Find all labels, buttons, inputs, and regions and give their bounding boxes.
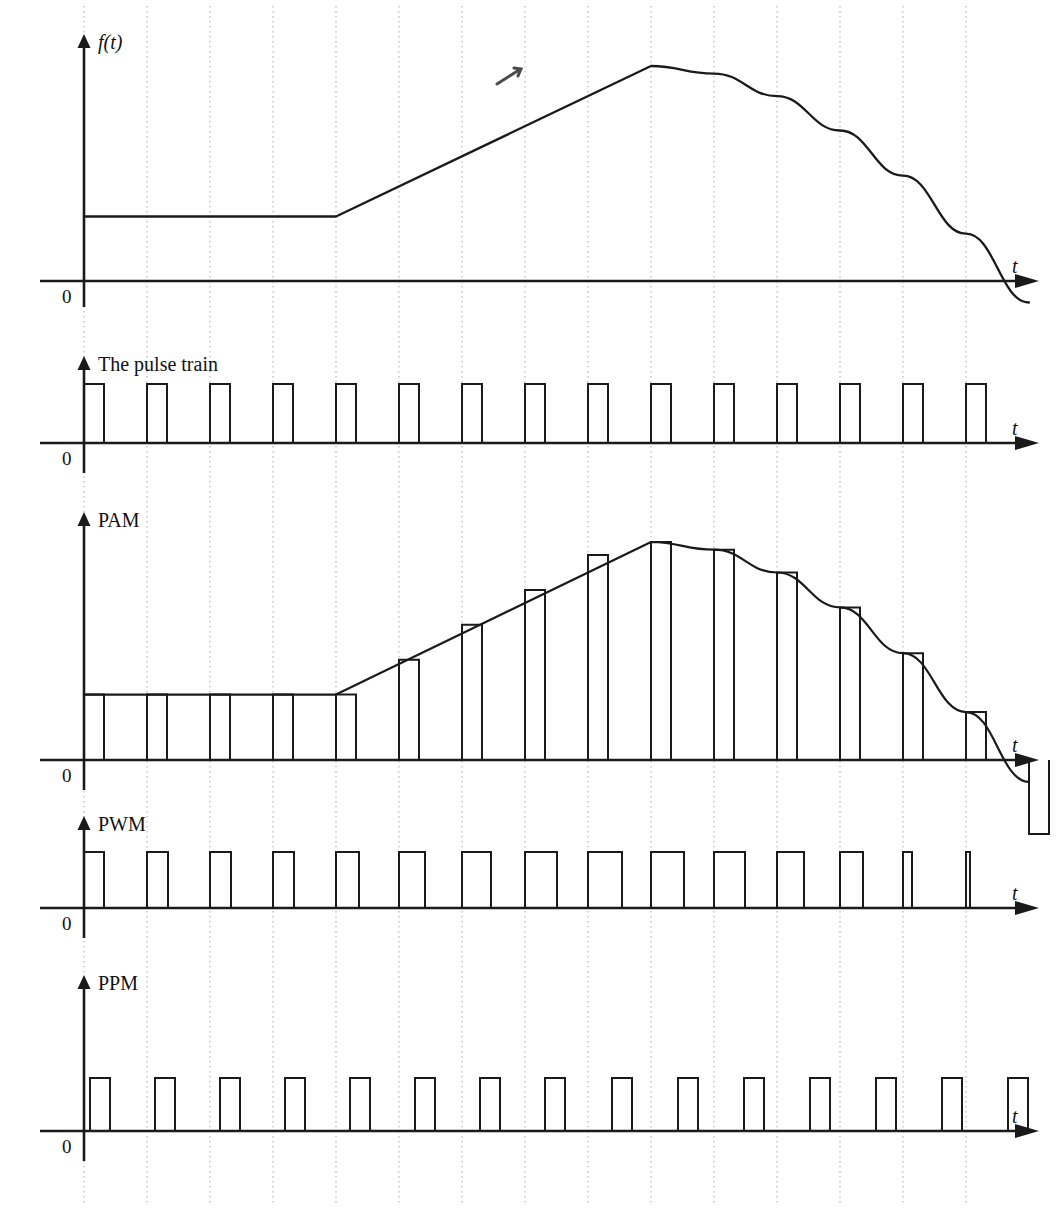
axes-pwm [40,816,1039,938]
pam-pulse [462,625,482,760]
pam-pulse [84,695,104,760]
signal-curve [84,66,1029,303]
pulse-train-pulse [273,384,293,443]
origin-label-pwm: 0 [62,914,72,933]
ppm-pulse [90,1078,110,1131]
pam-pulse [588,555,608,760]
pam-pulse [273,695,293,760]
pam-pulse [714,550,734,760]
pwm-pulse [651,852,684,908]
pam-envelope [84,542,1029,782]
pulse-train-pulse [84,384,104,443]
t-axis-arrow-pulse-train [1015,436,1039,450]
pam-pulse [1029,760,1049,834]
ramp-marker-icon [497,68,521,84]
pwm-pulse [336,852,359,908]
pwm-pulse [84,852,104,908]
pulse-modulation-figure: f(t)t0The pulse traint0PAMt0PWMt0PPMt0 [0,0,1056,1210]
origin-label-ppm: 0 [62,1137,72,1156]
ppm-pulse [942,1078,962,1131]
t-axis-arrow-signal [1015,274,1039,288]
pulse-train-pulse [399,384,419,443]
panel-label-signal: f(t) [98,32,122,52]
pam-pulse [147,695,167,760]
value-axis-arrow-ppm [78,975,91,989]
pam-pulse [777,573,797,760]
origin-label-pulse-train: 0 [62,449,72,468]
pwm-group [84,852,970,908]
pulse-train-pulse [147,384,167,443]
t-axis-label-pwm: t [1012,883,1018,903]
pulse-train-pulse [462,384,482,443]
t-axis-label-ppm: t [1012,1106,1018,1126]
pwm-pulse [903,852,912,908]
ppm-pulse [480,1078,500,1131]
ppm-group [90,1078,1028,1131]
t-axis-arrow-pam [1015,753,1039,767]
pwm-pulse [714,852,745,908]
panel-label-pam: PAM [98,510,140,530]
pulse-train-pulse [714,384,734,443]
pam-pulse [399,660,419,760]
pam-pulse [651,542,671,760]
pulse-train-pulse [651,384,671,443]
t-axis-label-pam: t [1012,735,1018,755]
ppm-pulse [744,1078,764,1131]
value-axis-arrow-pulse-train [78,356,91,370]
axes-ppm [40,975,1039,1161]
pwm-pulse [462,852,491,908]
axes-pam [40,512,1039,790]
panel-label-pulse-train: The pulse train [98,354,218,374]
ppm-pulse [220,1078,240,1131]
ppm-pulse [285,1078,305,1131]
t-axis-arrow-pwm [1015,901,1039,915]
pulse-train-pulse [777,384,797,443]
pwm-pulse [273,852,294,908]
ppm-pulse [678,1078,698,1131]
pwm-pulse [777,852,804,908]
ppm-pulse [612,1078,632,1131]
t-axis-label-pulse-train: t [1012,418,1018,438]
pulse-train-pulse [210,384,230,443]
pwm-pulse [840,852,863,908]
pwm-pulse [966,852,970,908]
pulse-train-pulse [840,384,860,443]
ppm-pulse [415,1078,435,1131]
figure-canvas [0,0,1056,1210]
pam-pulse [966,712,986,760]
ppm-pulse [810,1078,830,1131]
signal-curve-group [84,66,1029,303]
pulse-train-pulse [966,384,986,443]
origin-label-pam: 0 [62,766,72,785]
pam-pulse [903,653,923,760]
pwm-pulse [147,852,168,908]
ppm-pulse [155,1078,175,1131]
ppm-pulse [350,1078,370,1131]
t-axis-label-signal: t [1012,256,1018,276]
value-axis-arrow-pam [78,512,91,526]
pulse-train-pulse [336,384,356,443]
pwm-pulse [210,852,231,908]
pulse-train-pulse [903,384,923,443]
pam-pulse [525,590,545,760]
pulse-train-pulse [588,384,608,443]
origin-label-signal: 0 [62,287,72,306]
pam-pulse [210,695,230,760]
panel-label-ppm: PPM [98,973,138,993]
pulse-train-pulse [525,384,545,443]
pwm-pulse [525,852,557,908]
panel-label-pwm: PWM [98,814,146,834]
value-axis-arrow-signal [78,34,91,48]
ppm-pulse [876,1078,896,1131]
ppm-pulse [545,1078,565,1131]
pwm-pulse [588,852,622,908]
pwm-pulse [399,852,425,908]
value-axis-arrow-pwm [78,816,91,830]
pam-pulse [840,607,860,760]
pam-group [84,542,1049,834]
ppm-pulse [1008,1078,1028,1131]
pulse-train-group [84,384,986,443]
pam-pulse [336,695,356,760]
